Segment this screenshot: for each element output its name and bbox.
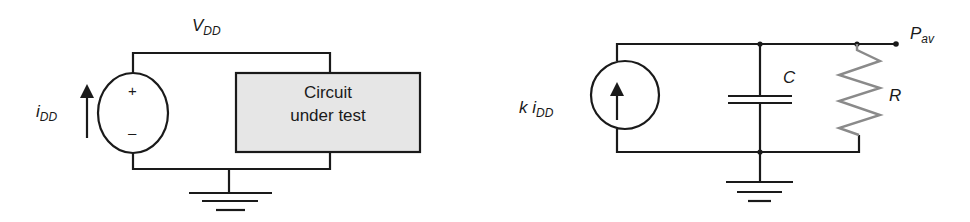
idd-label: iDD: [36, 103, 57, 123]
capacitor-label: C: [783, 69, 795, 86]
k-idd-label: k iDD: [519, 99, 553, 119]
plus-sign: +: [128, 83, 137, 98]
junction-dot: [757, 149, 762, 154]
circuit-diagram: [0, 0, 970, 222]
minus-sign: –: [128, 125, 136, 140]
right-circuit: [591, 41, 899, 201]
junction-dot: [757, 41, 762, 46]
vdd-label: VDD: [192, 17, 221, 37]
bottom-wire: [617, 129, 859, 152]
source-arrow-icon: [610, 82, 624, 96]
output-terminal-dot: [893, 41, 899, 47]
current-arrow-icon: [80, 84, 94, 98]
current-source-icon: [591, 61, 659, 129]
resistor-icon: [839, 44, 880, 135]
circuit-under-test-label: Circuit under test: [278, 81, 378, 127]
pav-label: Pav: [910, 25, 934, 45]
vdd-wire: [133, 53, 330, 73]
ground-wire: [133, 152, 330, 169]
resistor-label: R: [889, 87, 901, 104]
top-wire: [617, 44, 896, 61]
